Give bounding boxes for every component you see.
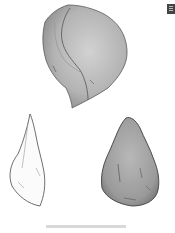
rounded-stone <box>43 5 127 108</box>
document-icon[interactable] <box>167 4 175 14</box>
outline-flake <box>10 114 45 206</box>
artifact-illustration <box>0 0 175 233</box>
pointed-stone <box>101 117 158 206</box>
figure-caption <box>46 225 126 228</box>
